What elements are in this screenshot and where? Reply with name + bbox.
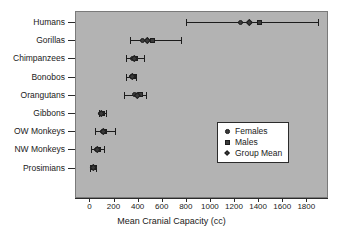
chart-legend: FemalesMalesGroup Mean	[217, 122, 289, 163]
x-axis-tick-label: 1000	[201, 203, 219, 211]
data-marker-males	[257, 20, 262, 25]
legend-item-males: Males	[222, 137, 282, 148]
legend-label: Females	[233, 127, 268, 136]
y-axis-label-gorillas: Gorillas	[36, 36, 65, 45]
y-axis-label-humans: Humans	[33, 18, 65, 27]
plot-panel	[75, 11, 328, 198]
legend-item-group-mean: Group Mean	[222, 148, 282, 159]
whisker-cap	[96, 165, 97, 172]
x-axis-tick-label: 800	[179, 203, 192, 211]
square-marker-icon	[222, 140, 233, 145]
whisker-cap	[126, 55, 127, 62]
data-marker-females	[238, 20, 243, 25]
y-axis-tick	[68, 40, 75, 41]
chart-figure: HumansGorillasChimpanzeesBonobosOranguta…	[0, 0, 343, 235]
legend-item-females: Females	[222, 126, 282, 137]
whisker-cap	[181, 37, 182, 44]
x-axis-tick-label: 600	[155, 203, 168, 211]
whisker-cap	[144, 55, 145, 62]
whisker-cap	[126, 74, 127, 81]
y-axis-tick	[68, 77, 75, 78]
x-axis-tick-label: 1800	[297, 203, 315, 211]
x-axis-tick-label: 1600	[273, 203, 291, 211]
whisker-cap	[136, 74, 137, 81]
y-axis-tick	[68, 168, 75, 169]
y-axis-category-labels: HumansGorillasChimpanzeesBonobosOranguta…	[0, 0, 70, 235]
whisker-cap	[318, 19, 319, 26]
legend-label: Males	[233, 138, 258, 147]
legend-label: Group Mean	[233, 149, 282, 158]
y-axis-label-orangutans: Orangutans	[21, 91, 65, 100]
x-axis-tick-label: 200	[107, 203, 120, 211]
diamond-marker-icon	[222, 151, 233, 155]
whisker-cap	[130, 37, 131, 44]
y-axis-label-prosimians: Prosimians	[23, 163, 65, 172]
whisker-cap	[104, 146, 105, 153]
y-axis-tick	[68, 113, 75, 114]
whisker-cap	[186, 19, 187, 26]
whisker-cap	[146, 92, 147, 99]
x-axis-tick-label: 0	[87, 203, 91, 211]
x-axis-tick-label: 400	[131, 203, 144, 211]
y-axis-label-bonobos: Bonobos	[31, 72, 65, 81]
y-axis-label-nw-monkeys: NW Monkeys	[14, 145, 65, 154]
y-axis-label-gibbons: Gibbons	[33, 109, 65, 118]
y-axis-tick	[68, 131, 75, 132]
circle-marker-icon	[222, 129, 233, 134]
y-axis-label-chimpanzees: Chimpanzees	[13, 54, 65, 63]
y-axis-tick	[68, 22, 75, 23]
whisker-cap	[95, 128, 96, 135]
whisker-cap	[106, 110, 107, 117]
whisker-cap	[124, 92, 125, 99]
range-whisker	[130, 40, 181, 41]
y-axis-tick	[68, 149, 75, 150]
y-axis-tick	[68, 95, 75, 96]
y-axis-tick	[68, 58, 75, 59]
whisker-cap	[115, 128, 116, 135]
whisker-cap	[91, 146, 92, 153]
x-axis-tick-label: 1400	[249, 203, 267, 211]
x-axis-title: Mean Cranial Capacity (cc)	[0, 217, 343, 226]
y-axis-label-ow-monkeys: OW Monkeys	[14, 127, 65, 136]
x-axis-tick-label: 1200	[225, 203, 243, 211]
